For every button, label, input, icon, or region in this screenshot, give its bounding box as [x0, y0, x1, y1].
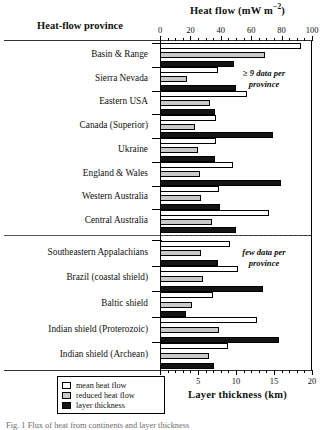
bottom-axis-tick-labels: 05101520 [160, 376, 312, 388]
bottom-axis-tick [190, 370, 191, 373]
row-label: Southeastern Appalachians [0, 247, 152, 257]
chart-row: England & Wales [0, 162, 312, 186]
bar-mean-heat-flow [160, 343, 228, 349]
row-label: Central Australia [0, 215, 152, 225]
legend-label: layer thickness [76, 401, 125, 410]
bar-mean-heat-flow [160, 67, 218, 73]
chart-row: Eastern USA [0, 91, 312, 115]
bar-mean-heat-flow [160, 91, 247, 97]
row-label: Eastern USA [0, 96, 152, 106]
annotation-many-line1: ≥ 9 data per [218, 68, 310, 79]
bar-mean-heat-flow [160, 138, 216, 144]
bar-mean-heat-flow [160, 317, 257, 323]
top-axis-tick [274, 38, 275, 41]
row-bars [160, 91, 312, 115]
top-axis-tick-label: 0 [158, 25, 162, 35]
chart-row: Western Australia [0, 186, 312, 210]
row-label: Sierra Nevada [0, 73, 152, 83]
top-axis-tick-label: 60 [247, 25, 256, 35]
bottom-axis-tick [259, 370, 260, 373]
bottom-axis-tick [244, 370, 245, 373]
bottom-axis-tick-label: 15 [270, 376, 279, 386]
bar-reduced-heat-flow [160, 171, 200, 177]
bar-reduced-heat-flow [160, 327, 219, 333]
legend-swatch-icon [62, 402, 71, 409]
annotation-few-line1: few data per [218, 247, 310, 258]
row-bars [160, 291, 312, 317]
bottom-axis-tick-label: 20 [308, 376, 317, 386]
bottom-axis-tick [304, 370, 305, 373]
chart-row: Basin & Range [0, 43, 312, 67]
top-axis-title-text: Heat flow (mW m [190, 5, 273, 16]
figure-caption: Fig. 1 Flux of heat from continents and … [6, 421, 326, 430]
bar-mean-heat-flow [160, 43, 301, 49]
bottom-axis-tick [236, 370, 237, 375]
row-label: England & Wales [0, 168, 152, 178]
annotation-many-data: ≥ 9 data per province [218, 68, 310, 89]
bar-mean-heat-flow [160, 210, 269, 216]
annotation-few-data: few data per province [218, 247, 310, 268]
top-axis-tick [289, 38, 290, 41]
chart-row: Central Australia [0, 209, 312, 233]
bottom-axis-tick [213, 370, 214, 373]
top-axis-title: Heat flow (mW m−2) [160, 2, 315, 16]
figure-root: Heat flow (mW m−2) Heat-flow province 02… [0, 0, 330, 430]
chart-row: Canada (Superior) [0, 114, 312, 138]
row-bars [160, 266, 312, 292]
bottom-axis-tick [206, 370, 207, 373]
row-label: Canada (Superior) [0, 120, 152, 130]
row-label: Baltic shield [0, 298, 152, 308]
bottom-axis-tick [198, 370, 199, 375]
row-bars [160, 317, 312, 343]
row-label: Brazil (coastal shield) [0, 272, 152, 282]
bottom-axis-tick [168, 370, 169, 373]
legend-item: reduced heat flow [62, 390, 160, 400]
bottom-axis-tick [228, 370, 229, 373]
row-bars [160, 162, 312, 186]
bottom-axis-tick [160, 370, 161, 375]
legend-item: layer thickness [62, 400, 160, 410]
legend-item: mean heat flow [62, 380, 160, 390]
legend-swatch-icon [62, 382, 71, 389]
top-axis-tick [198, 38, 199, 41]
top-axis-tick [236, 38, 237, 41]
top-axis-tick [297, 38, 298, 41]
bar-reduced-heat-flow [160, 219, 212, 225]
bar-reduced-heat-flow [160, 124, 195, 130]
top-axis-tick [266, 38, 267, 41]
top-axis-tick [312, 36, 313, 41]
bar-mean-heat-flow [160, 186, 219, 192]
bottom-axis-ticks [160, 370, 312, 375]
annotation-many-line2: province [218, 79, 310, 90]
bottom-axis-tick [183, 370, 184, 373]
bottom-axis-tick [297, 370, 298, 373]
row-label: Basin & Range [0, 49, 152, 59]
top-axis-tick [259, 38, 260, 41]
top-axis-tick-label: 100 [306, 25, 319, 35]
bar-reduced-heat-flow [160, 276, 203, 282]
bar-mean-heat-flow [160, 241, 230, 247]
bar-mean-heat-flow [160, 292, 213, 298]
chart-row: Ukraine [0, 138, 312, 162]
chart-row: Indian shield (Proterozoic) [0, 317, 312, 343]
bottom-axis-tick [221, 370, 222, 373]
bar-layer-thickness [160, 363, 214, 369]
bar-reduced-heat-flow [160, 195, 201, 201]
top-axis-tick [213, 38, 214, 41]
bottom-axis-tick [175, 370, 176, 373]
top-axis-tick-label: 40 [217, 25, 226, 35]
chart-row: Baltic shield [0, 291, 312, 317]
legend: mean heat flowreduced heat flowlayer thi… [57, 376, 165, 414]
bar-reduced-heat-flow [160, 147, 198, 153]
chart-row: Brazil (coastal shield) [0, 266, 312, 292]
bottom-axis-tick [289, 370, 290, 373]
row-label: Indian shield (Proterozoic) [0, 324, 152, 334]
row-label: Ukraine [0, 144, 152, 154]
bottom-axis-tick [282, 370, 283, 373]
top-axis-tick [175, 38, 176, 41]
row-label: Indian shield (Archean) [0, 349, 152, 359]
bar-reduced-heat-flow [160, 353, 209, 359]
annotation-few-line2: province [218, 258, 310, 269]
bar-reduced-heat-flow [160, 302, 192, 308]
top-axis-tick [228, 38, 229, 41]
